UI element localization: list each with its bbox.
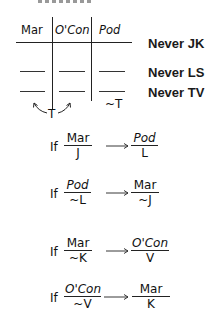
column-header-mar: Mar (21, 25, 43, 37)
slot-mar-row2 (20, 71, 45, 72)
rule-1: If Mar J Pod L (0, 132, 217, 166)
not-t-under-pod: ~T (105, 98, 122, 110)
rule-result: O'Con V (131, 237, 169, 265)
arrow-right-icon (106, 247, 130, 255)
rule-4: If O'Con ~V Mar K (0, 283, 217, 317)
column-divider-2 (91, 17, 92, 101)
rule-result: Mar K (132, 283, 170, 311)
rule-condition: Mar ~K (64, 237, 92, 265)
column-header-ocon: O'Con (55, 25, 90, 37)
rule-2: If Pod ~L Mar ~J (0, 179, 217, 213)
rule-result: Pod L (131, 132, 158, 160)
rule-3: If Mar ~K O'Con V (0, 237, 217, 271)
rule-condition: Pod ~L (64, 179, 91, 207)
constraint-never-ls: Never LS (148, 66, 204, 79)
arrow-right-icon (106, 142, 130, 150)
cropped-heading-fragment (38, 0, 94, 3)
if-label: If (50, 187, 58, 201)
slot-pod-row3 (99, 91, 125, 92)
header-divider-line (16, 42, 132, 43)
curved-arrows-icon (26, 96, 80, 118)
rule-condition: O'Con ~V (64, 283, 101, 311)
if-label: If (50, 140, 58, 154)
arrow-right-icon (104, 293, 130, 301)
slot-pod-row2 (99, 71, 125, 72)
rule-condition: Mar J (64, 132, 92, 160)
constraint-never-tv: Never TV (148, 86, 204, 99)
column-header-pod: Pod (99, 25, 120, 37)
slot-ocon-row2 (59, 71, 85, 72)
slot-mar-row3 (20, 91, 45, 92)
if-label: If (50, 291, 58, 305)
rule-result: Mar ~J (131, 179, 159, 207)
slot-ocon-row3 (59, 91, 85, 92)
if-label: If (50, 245, 58, 259)
constraint-never-jk: Never JK (148, 37, 204, 50)
arrow-right-icon (106, 189, 130, 197)
